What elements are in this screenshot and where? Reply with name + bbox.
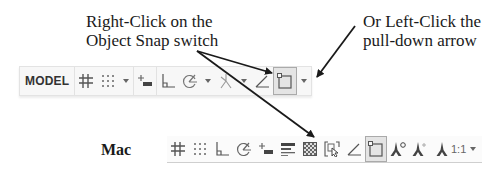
grid-icon <box>78 73 94 89</box>
grid-icon <box>170 141 186 157</box>
annotation-scale-value: 1:1 <box>449 143 466 155</box>
dynamic-input-icon <box>137 73 153 89</box>
dynamic-input-button[interactable] <box>255 136 277 162</box>
lineweight-button[interactable] <box>277 136 299 162</box>
annotation-visibility-icon <box>389 141 407 157</box>
selection-cycling-icon <box>324 141 340 157</box>
ortho-icon <box>214 141 230 157</box>
chevron-down-icon <box>241 79 247 83</box>
polar-tracking-icon <box>182 73 198 89</box>
callout-line-2: Object Snap switch <box>86 31 218 50</box>
isodraft-icon <box>218 73 234 89</box>
object-snap-icon <box>367 140 385 158</box>
polar-tracking-dropdown[interactable] <box>201 67 215 95</box>
polar-tracking-button[interactable] <box>233 136 255 162</box>
snap-tracking-icon <box>346 141 362 157</box>
auto-scale-icon <box>411 141 429 157</box>
chevron-down-icon <box>205 79 211 83</box>
transparency-button[interactable] <box>299 136 321 162</box>
annotation-scale-button[interactable]: 1:1 <box>431 136 482 162</box>
chevron-down-icon <box>123 79 129 83</box>
dynamic-input-icon <box>258 141 274 157</box>
ortho-icon <box>160 73 176 89</box>
ortho-mode-button[interactable] <box>211 136 233 162</box>
model-space-button[interactable]: MODEL <box>20 67 74 95</box>
selection-cycling-button[interactable] <box>321 136 343 162</box>
auto-scale-button[interactable] <box>409 136 431 162</box>
object-snap-button[interactable] <box>365 136 387 162</box>
callout-line-1: Right-Click on the <box>86 12 218 31</box>
annotation-visibility-button[interactable] <box>387 136 409 162</box>
snap-mode-button[interactable] <box>97 67 119 95</box>
snap-dots-icon <box>100 73 116 89</box>
isometric-drafting-dropdown[interactable] <box>237 67 251 95</box>
lineweight-icon <box>280 141 296 157</box>
mac-label: Mac <box>101 141 131 159</box>
callout-left-click-pulldown: Or Left-Click the pull-down arrow <box>363 12 481 50</box>
polar-tracking-icon <box>236 141 252 157</box>
snap-mode-button[interactable] <box>189 136 211 162</box>
grid-display-button[interactable] <box>75 67 97 95</box>
callout-line-1: Or Left-Click the <box>363 12 481 31</box>
grid-display-button[interactable] <box>167 136 189 162</box>
windows-status-bar: MODEL <box>19 66 312 96</box>
snap-dots-icon <box>192 141 208 157</box>
annotation-scale-icon <box>435 141 449 157</box>
object-snap-tracking-button[interactable] <box>343 136 365 162</box>
callout-line-2: pull-down arrow <box>363 31 481 50</box>
arrow-to-object-snap-dropdown <box>317 26 355 77</box>
callout-right-click-object-snap: Right-Click on the Object Snap switch <box>86 12 218 50</box>
chevron-down-icon <box>470 147 476 151</box>
object-snap-dropdown[interactable] <box>297 67 311 95</box>
object-snap-tracking-button[interactable] <box>251 67 273 95</box>
snap-mode-dropdown[interactable] <box>119 67 133 95</box>
dynamic-input-button[interactable] <box>134 67 156 95</box>
transparency-icon <box>302 141 318 157</box>
object-snap-button[interactable] <box>273 67 297 95</box>
chevron-down-icon <box>301 79 307 83</box>
ortho-mode-button[interactable] <box>157 67 179 95</box>
mac-status-bar: 1:1 <box>167 136 482 163</box>
object-snap-icon <box>276 72 294 90</box>
polar-tracking-button[interactable] <box>179 67 201 95</box>
isometric-drafting-button[interactable] <box>215 67 237 95</box>
snap-tracking-icon <box>254 73 270 89</box>
